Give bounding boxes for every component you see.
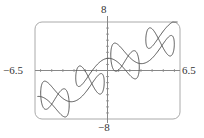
y-min-label: −8 <box>98 122 110 133</box>
y-max-label: 8 <box>101 4 107 15</box>
x-max-label: 6.5 <box>182 65 196 76</box>
x-min-label: −6.5 <box>3 65 23 76</box>
plot-area <box>0 0 204 138</box>
